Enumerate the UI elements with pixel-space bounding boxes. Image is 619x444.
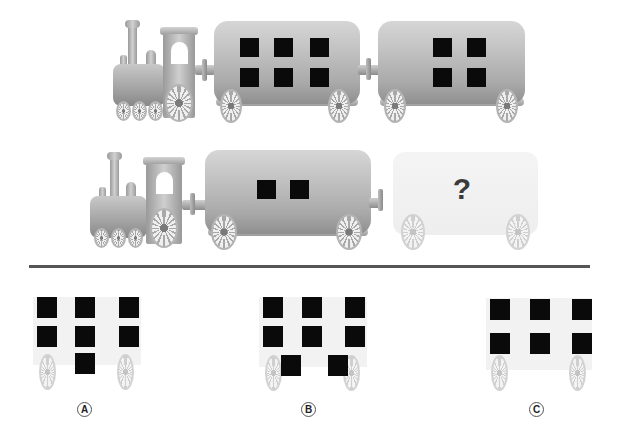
wheel-icon	[116, 101, 131, 121]
window	[37, 326, 57, 347]
window	[37, 297, 57, 318]
window	[572, 299, 592, 320]
wheel-icon	[132, 101, 147, 121]
window	[240, 68, 259, 87]
window	[433, 38, 452, 57]
wheel-icon	[220, 89, 242, 123]
window	[328, 355, 348, 376]
window	[274, 68, 293, 87]
window	[345, 297, 365, 318]
window	[310, 38, 329, 57]
wheel-icon	[111, 228, 126, 248]
smokestack-cap	[125, 20, 140, 28]
window	[302, 297, 322, 318]
window	[257, 180, 276, 199]
window	[263, 297, 283, 318]
option-label[interactable]: C	[529, 402, 544, 417]
window	[290, 180, 309, 199]
wheel-icon	[384, 89, 406, 123]
wheel-icon	[148, 101, 163, 121]
wheel-icon	[491, 355, 508, 391]
smokestack	[110, 155, 119, 200]
smokestack-cap	[107, 152, 122, 160]
boiler	[113, 64, 165, 106]
wheel-icon	[165, 84, 193, 122]
cab-window	[156, 172, 173, 194]
wheel-icon	[265, 355, 282, 391]
window	[530, 333, 550, 354]
option-label[interactable]: B	[301, 402, 316, 417]
window	[240, 38, 259, 57]
wheel-icon	[150, 208, 178, 248]
window	[263, 326, 283, 347]
window	[530, 299, 550, 320]
window	[310, 68, 329, 87]
wheel-icon	[336, 214, 362, 250]
coupler-plate	[366, 58, 371, 80]
divider	[29, 265, 590, 268]
option-label[interactable]: A	[77, 402, 92, 417]
window	[467, 68, 486, 87]
window	[119, 297, 139, 318]
window	[281, 355, 301, 376]
question-mark: ?	[442, 172, 482, 206]
window	[490, 299, 510, 320]
window	[119, 326, 139, 347]
wheel-icon	[117, 354, 134, 390]
wheel-icon	[328, 89, 350, 123]
window	[345, 326, 365, 347]
wheel-icon	[496, 89, 518, 123]
coupler-plate	[190, 193, 195, 215]
cab-window	[171, 42, 188, 64]
window	[490, 333, 510, 354]
window	[433, 68, 452, 87]
window	[302, 326, 322, 347]
wheel-icon	[94, 228, 109, 248]
window	[75, 326, 95, 347]
window	[274, 38, 293, 57]
wheel-icon	[506, 214, 530, 250]
window	[75, 297, 95, 318]
wheel-icon	[211, 214, 237, 250]
wheel-icon	[401, 214, 425, 250]
wheel-icon	[569, 355, 586, 391]
smokestack	[128, 22, 137, 67]
window	[572, 333, 592, 354]
coupler-plate	[378, 189, 383, 211]
coupler-plate	[202, 59, 207, 81]
window	[75, 353, 95, 374]
wheel-icon	[128, 228, 143, 248]
wheel-icon	[39, 354, 56, 390]
window	[467, 38, 486, 57]
